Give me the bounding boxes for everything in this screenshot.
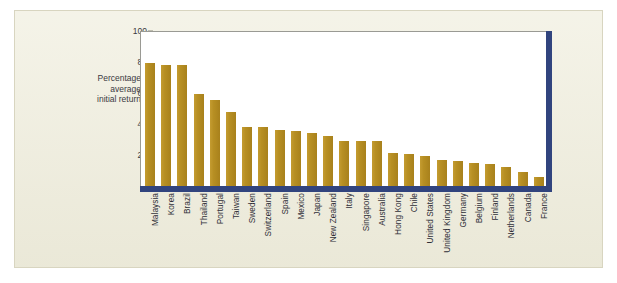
x-tick-label: Belgium	[473, 193, 482, 223]
bar	[194, 94, 204, 187]
x-tick-label: Chile	[408, 193, 417, 212]
x-axis-labels: MalaysiaKoreaBrazilThailandPortugalTaiwa…	[140, 193, 546, 271]
bar-column	[275, 32, 285, 187]
x-tick-label: Singapore	[360, 193, 369, 231]
x-label-column: Italy	[338, 193, 348, 271]
bar-column	[437, 32, 447, 187]
x-label-column: Chile	[403, 193, 413, 271]
x-tick-label: Japan	[311, 193, 320, 216]
plot-area	[140, 31, 547, 187]
x-label-column: Canada	[517, 193, 527, 271]
bar	[275, 130, 285, 187]
x-tick-label: France	[538, 193, 547, 219]
x-label-column: Korea	[160, 193, 170, 271]
x-label-column: Finland	[484, 193, 494, 271]
bar-column	[258, 32, 268, 187]
x-label-column: Hong Kong	[387, 193, 397, 271]
x-tick-label: Taiwan	[230, 193, 239, 219]
bar	[307, 133, 317, 187]
bar	[339, 141, 349, 188]
bar-column	[372, 32, 382, 187]
x-label-column: Sweden	[241, 193, 251, 271]
x-tick-label: Portugal	[214, 193, 223, 224]
x-tick-label: Korea	[165, 193, 174, 215]
x-tick-label: Sweden	[246, 193, 255, 223]
x-label-column: United States	[419, 193, 429, 271]
x-label-column: France	[533, 193, 543, 271]
bar-column	[226, 32, 236, 187]
plot-right-border	[546, 31, 552, 192]
x-label-column: Japan	[306, 193, 316, 271]
bar	[291, 131, 301, 187]
x-tick-label: Thailand	[198, 193, 207, 225]
x-tick-label: Brazil	[181, 193, 190, 214]
bar-column	[485, 32, 495, 187]
bar	[258, 127, 268, 187]
x-tick-label: Netherlands	[505, 193, 514, 238]
x-tick-label: Australia	[376, 193, 385, 226]
x-tick-label: Spain	[279, 193, 288, 214]
bar-column	[242, 32, 252, 187]
x-axis-baseline	[140, 186, 552, 192]
x-tick-label: Germany	[457, 193, 466, 227]
x-tick-label: Malaysia	[149, 193, 158, 226]
x-tick-label: Switzerland	[262, 193, 271, 236]
bar-column	[404, 32, 414, 187]
bar	[437, 160, 447, 187]
bar-column	[501, 32, 511, 187]
x-label-column: Singapore	[355, 193, 365, 271]
bar	[372, 141, 382, 188]
bar-column	[210, 32, 220, 187]
x-tick-label: Canada	[522, 193, 531, 222]
bar	[210, 100, 220, 187]
bar-column	[388, 32, 398, 187]
x-label-column: Belgium	[468, 193, 478, 271]
bar-column	[339, 32, 349, 187]
bar-column	[469, 32, 479, 187]
bar	[323, 136, 333, 187]
x-tick-label: New Zealand	[327, 193, 336, 242]
bar-column	[453, 32, 463, 187]
bar	[177, 65, 187, 187]
x-tick-label: Hong Kong	[392, 193, 401, 235]
x-label-column: Brazil	[176, 193, 186, 271]
bar	[404, 154, 414, 187]
bar-column	[145, 32, 155, 187]
bar-column	[194, 32, 204, 187]
x-label-column: Portugal	[209, 193, 219, 271]
bar-column	[307, 32, 317, 187]
x-tick-label: United States	[424, 193, 433, 243]
bar-column	[518, 32, 528, 187]
bar	[356, 141, 366, 188]
bar-column	[420, 32, 430, 187]
bar	[453, 161, 463, 187]
bar	[226, 112, 236, 187]
x-label-column: Spain	[274, 193, 284, 271]
x-tick-label: Mexico	[295, 193, 304, 220]
x-tick-label: United Kingdom	[441, 193, 450, 253]
bar	[145, 63, 155, 187]
x-label-column: United Kingdom	[436, 193, 446, 271]
x-label-column: Germany	[452, 193, 462, 271]
bar	[388, 153, 398, 187]
x-label-column: Switzerland	[257, 193, 267, 271]
bar	[161, 65, 171, 187]
bar	[420, 156, 430, 187]
bar	[518, 172, 528, 188]
x-label-column: Thailand	[193, 193, 203, 271]
chart-figure: Percentage average initial return 100806…	[14, 10, 603, 268]
x-label-column: Australia	[371, 193, 381, 271]
x-label-column: New Zealand	[322, 193, 332, 271]
x-label-column: Malaysia	[144, 193, 154, 271]
x-label-column: Netherlands	[500, 193, 510, 271]
bar-column	[161, 32, 171, 187]
x-label-column: Taiwan	[225, 193, 235, 271]
bar	[242, 127, 252, 187]
bar-column	[356, 32, 366, 187]
bar	[485, 164, 495, 187]
x-tick-label: Finland	[489, 193, 498, 221]
bar	[501, 167, 511, 187]
bar	[469, 163, 479, 187]
x-tick-label: Italy	[343, 193, 352, 209]
bar-column	[323, 32, 333, 187]
